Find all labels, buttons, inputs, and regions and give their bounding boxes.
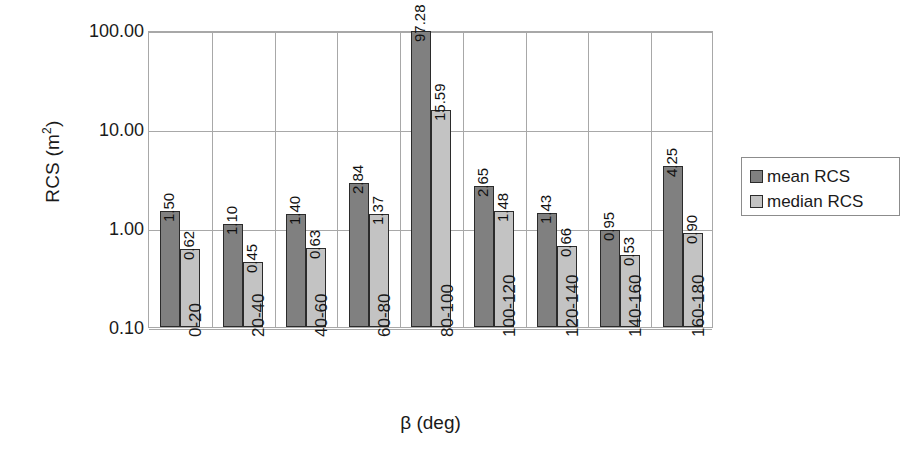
bar-value-label: 4.25 bbox=[664, 148, 679, 177]
legend-item[interactable]: median RCS bbox=[750, 193, 863, 210]
legend-item-label: mean RCS bbox=[767, 168, 850, 185]
y-axis-tick-label: 100.00 bbox=[44, 22, 144, 40]
x-axis-tick-label: 80-100 bbox=[439, 284, 456, 337]
legend-swatch-icon bbox=[750, 195, 763, 208]
bar-mean bbox=[663, 166, 683, 327]
bar-mean bbox=[286, 214, 306, 327]
bar-mean bbox=[537, 213, 557, 327]
legend: mean RCSmedian RCS bbox=[741, 157, 900, 216]
bar-value-label: 0.45 bbox=[244, 244, 259, 273]
x-axis-tick-label: 100-120 bbox=[501, 275, 518, 337]
bar-value-label: 0.90 bbox=[684, 214, 699, 243]
x-axis-tick-label: 0-20 bbox=[187, 303, 204, 337]
x-axis-tick-label: 160-180 bbox=[690, 275, 707, 337]
bar-value-label: 1.43 bbox=[538, 194, 553, 223]
bar-group: 1.100.45 bbox=[212, 32, 275, 327]
legend-swatch-icon bbox=[750, 170, 763, 183]
bar-value-label: 1.50 bbox=[161, 192, 176, 221]
bar-group: 1.400.63 bbox=[275, 32, 338, 327]
bar-group: 2.841.37 bbox=[337, 32, 400, 327]
bar-value-label: 1.40 bbox=[287, 195, 302, 224]
bar-mean bbox=[160, 211, 180, 327]
bar-value-label: 0.53 bbox=[621, 237, 636, 266]
x-axis-tick-label: 140-160 bbox=[627, 275, 644, 337]
x-axis-title: β (deg) bbox=[148, 412, 713, 434]
bar-value-label: 97.28 bbox=[412, 5, 427, 43]
rcs-bar-chart: RCS (m2) 100.0010.001.000.10 1.500.621.1… bbox=[0, 0, 921, 450]
y-axis-tick-label: 0.10 bbox=[44, 319, 144, 337]
bar-group: 97.2815.59 bbox=[400, 32, 463, 327]
x-axis-tick-label: 20-40 bbox=[250, 294, 267, 337]
bar-value-label: 1.37 bbox=[370, 196, 385, 225]
legend-item[interactable]: mean RCS bbox=[750, 168, 850, 185]
x-axis-tick-label: 120-140 bbox=[564, 275, 581, 337]
bar-value-label: 0.63 bbox=[307, 230, 322, 259]
bar-group: 1.500.62 bbox=[149, 32, 212, 327]
bar-value-label: 1.10 bbox=[224, 206, 239, 235]
bar-value-label: 2.84 bbox=[350, 165, 365, 194]
bar-mean bbox=[474, 186, 494, 327]
legend-item-label: median RCS bbox=[767, 193, 863, 210]
bar-mean bbox=[223, 224, 243, 327]
x-axis-tick-labels: 0-2020-4040-6060-8080-100100-120120-1401… bbox=[148, 333, 713, 408]
y-axis-tick-label: 1.00 bbox=[44, 220, 144, 238]
bar-value-label: 0.62 bbox=[181, 230, 196, 259]
y-axis-tick-label: 10.00 bbox=[44, 121, 144, 139]
bar-mean bbox=[349, 183, 369, 327]
bar-mean bbox=[411, 31, 431, 327]
bar-value-label: 0.95 bbox=[601, 212, 616, 241]
bar-value-label: 15.59 bbox=[432, 83, 447, 121]
x-axis-tick-label: 40-60 bbox=[313, 294, 330, 337]
bar-value-label: 2.65 bbox=[475, 168, 490, 197]
bar-value-label: 0.66 bbox=[558, 228, 573, 257]
y-axis-tick-labels: 100.0010.001.000.10 bbox=[40, 0, 144, 450]
bar-mean bbox=[600, 230, 620, 327]
bar-value-label: 1.48 bbox=[495, 193, 510, 222]
x-axis-tick-label: 60-80 bbox=[376, 294, 393, 337]
